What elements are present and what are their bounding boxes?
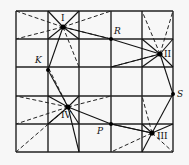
label-K: K: [34, 55, 43, 65]
point-III: [149, 130, 154, 135]
point-S: [171, 92, 175, 96]
label-III: III: [157, 131, 168, 141]
label-P: P: [96, 126, 104, 136]
grid-diagram: I II III IV R K S P: [0, 0, 189, 165]
point-I: [60, 24, 65, 29]
point-P: [109, 122, 113, 126]
point-K: [46, 68, 50, 72]
label-II: II: [164, 49, 172, 59]
point-II: [157, 51, 162, 56]
label-IV: IV: [61, 110, 72, 120]
point-IV: [65, 104, 70, 109]
label-I: I: [61, 13, 65, 23]
label-R: R: [113, 26, 121, 36]
label-S: S: [177, 89, 183, 99]
point-R: [109, 37, 113, 41]
